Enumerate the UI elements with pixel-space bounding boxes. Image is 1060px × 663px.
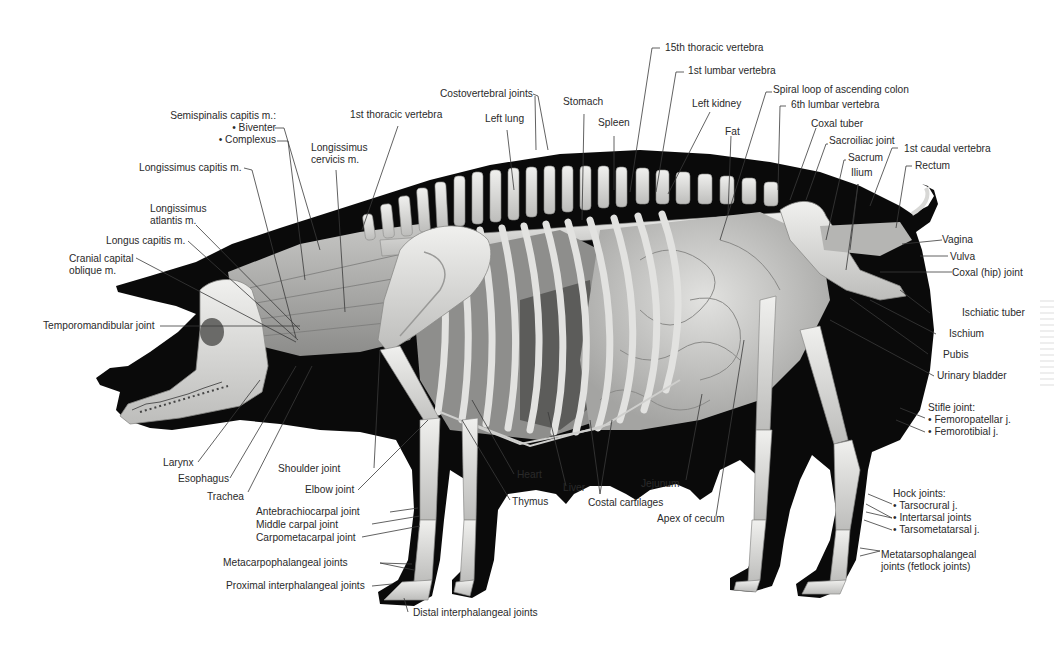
label-femorotibial: • Femorotibial j. — [928, 426, 1011, 438]
label-middle-carpal-joint: Middle carpal joint — [256, 519, 338, 531]
label-15th-thoracic-vertebra: 15th thoracic vertebra — [665, 42, 764, 54]
label-line: Metatarsophalangeal — [881, 549, 976, 561]
scan-artifact — [1040, 300, 1054, 390]
label-left-kidney: Left kidney — [692, 98, 741, 110]
label-fat: Fat — [725, 126, 740, 138]
label-line: Cranial capital — [69, 253, 134, 265]
label-hock-title: Hock joints: — [893, 488, 980, 500]
label-ischium: Ischium — [949, 328, 984, 340]
label-line: cervicis m. — [311, 154, 368, 166]
label-intertarsal: • Intertarsal joints — [893, 512, 980, 524]
label-esophagus: Esophagus — [178, 473, 229, 485]
label-1st-caudal-vertebra: 1st caudal vertebra — [904, 143, 991, 155]
label-larynx: Larynx — [163, 457, 194, 469]
label-tarsometatarsal: • Tarsometatarsal j. — [893, 524, 980, 536]
label-longus-capitis: Longus capitis m. — [106, 235, 185, 247]
label-left-lung: Left lung — [485, 113, 524, 125]
label-vagina: Vagina — [942, 234, 973, 246]
label-6th-lumbar-vertebra: 6th lumbar vertebra — [791, 99, 879, 111]
label-biventer: • Biventer — [150, 122, 276, 134]
label-longissimus-atlantis: Longissimus atlantis m. — [150, 203, 207, 227]
label-carpometacarpal-joint: Carpometacarpal joint — [256, 532, 356, 544]
label-vulva: Vulva — [950, 251, 975, 263]
label-tarsocrural: • Tarsocrural j. — [893, 500, 980, 512]
label-pubis: Pubis — [943, 349, 968, 361]
label-line: Longissimus — [150, 203, 207, 215]
label-1st-thoracic-vertebra: 1st thoracic vertebra — [350, 109, 442, 121]
label-trachea: Trachea — [207, 491, 244, 503]
label-distal-interphalangeal-joints: Distal interphalangeal joints — [413, 607, 538, 619]
label-longissimus-capitis: Longissimus capitis m. — [139, 162, 241, 174]
label-femoropatellar: • Femoropatellar j. — [928, 414, 1011, 426]
label-longissimus-cervicis: Longissimus cervicis m. — [311, 142, 368, 166]
label-temporomandibular-joint: Temporomandibular joint — [43, 320, 155, 332]
label-jejunum: Jejunum — [641, 478, 680, 490]
label-heart: Heart — [517, 469, 542, 481]
label-coxal-tuber: Coxal tuber — [811, 118, 863, 130]
label-coxal-hip-joint: Coxal (hip) joint — [952, 267, 1023, 279]
label-spiral-loop-ascending-colon: Spiral loop of ascending colon — [773, 84, 909, 96]
label-stomach: Stomach — [563, 96, 603, 108]
label-spleen: Spleen — [598, 117, 630, 129]
label-line: Longissimus — [311, 142, 368, 154]
label-line: oblique m. — [69, 265, 134, 277]
label-semispinalis-capitis: Semispinalis capitis m.: • Biventer • Co… — [150, 110, 276, 146]
label-liver: Liver — [563, 482, 585, 494]
label-cranial-capital-oblique: Cranial capital oblique m. — [69, 253, 134, 277]
label-complexus: • Complexus — [150, 134, 276, 146]
label-costal-cartilages: Costal cartilages — [588, 497, 663, 509]
label-metacarpophalangeal-joints: Metacarpophalangeal joints — [223, 557, 348, 569]
label-semispinalis-title: Semispinalis capitis m.: — [150, 110, 276, 122]
label-stifle-title: Stifle joint: — [928, 402, 1011, 414]
label-line: joints (fetlock joints) — [881, 561, 976, 573]
label-antebrachiocarpal-joint: Antebrachiocarpal joint — [256, 506, 360, 518]
label-hock-joints: Hock joints: • Tarsocrural j. • Intertar… — [893, 488, 980, 536]
label-ilium: Ilium — [851, 167, 873, 179]
label-apex-of-cecum: Apex of cecum — [657, 513, 724, 525]
label-stifle-joint: Stifle joint: • Femoropatellar j. • Femo… — [928, 402, 1011, 438]
label-line: atlantis m. — [150, 215, 207, 227]
label-shoulder-joint: Shoulder joint — [278, 463, 340, 475]
label-thymus: Thymus — [512, 496, 548, 508]
label-elbow-joint: Elbow joint — [305, 484, 354, 496]
label-1st-lumbar-vertebra: 1st lumbar vertebra — [688, 65, 776, 77]
label-urinary-bladder: Urinary bladder — [937, 370, 1007, 382]
label-sacroiliac-joint: Sacroiliac joint — [829, 135, 895, 147]
label-metatarsophalangeal-joints: Metatarsophalangeal joints (fetlock join… — [881, 549, 976, 573]
anatomy-figure: Semispinalis capitis m.: • Biventer • Co… — [0, 0, 1060, 663]
label-rectum: Rectum — [915, 160, 950, 172]
label-ischiatic-tuber: Ischiatic tuber — [962, 307, 1025, 319]
label-costovertebral-joints: Costovertebral joints — [440, 88, 533, 100]
label-proximal-interphalangeal-joints: Proximal interphalangeal joints — [226, 580, 365, 592]
label-sacrum: Sacrum — [848, 152, 883, 164]
